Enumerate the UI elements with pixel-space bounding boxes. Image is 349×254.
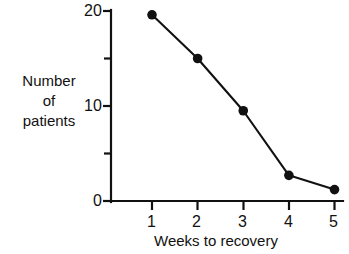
x-tick-label-2: 2	[192, 214, 201, 230]
x-tick-label-1: 1	[147, 214, 156, 230]
y-tick-label-20: 20	[84, 3, 102, 19]
chart-figure: 20 10 0 1 2 3 4 5 Number of patients Wee…	[0, 0, 349, 254]
x-tick-label-3: 3	[238, 214, 247, 230]
y-axis-label-line-1: Number	[10, 71, 88, 91]
data-point	[147, 10, 157, 20]
data-point	[193, 54, 203, 64]
y-axis-label-line-3: patients	[10, 111, 88, 131]
x-tick-label-5: 5	[329, 214, 338, 230]
data-series-line	[152, 15, 335, 190]
y-tick-label-0: 0	[93, 193, 102, 209]
data-point	[238, 106, 248, 116]
data-point	[330, 185, 340, 195]
data-point	[284, 171, 294, 181]
y-axis-label-line-2: of	[10, 91, 88, 111]
x-axis-label: Weeks to recovery	[154, 232, 278, 249]
x-tick-label-4: 4	[284, 214, 293, 230]
